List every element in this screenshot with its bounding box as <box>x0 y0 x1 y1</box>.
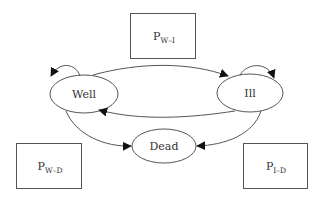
prob-sub: I–D <box>273 166 286 175</box>
prob-label-w-i: PW–I <box>153 30 175 45</box>
prob-box-w-i: PW–I <box>130 13 196 59</box>
state-well-label: Well <box>72 88 96 101</box>
state-ill-label: Ill <box>244 87 255 100</box>
prob-box-i-d: PI–D <box>243 143 308 189</box>
arrow-well-to-ill <box>93 65 228 76</box>
state-dead-label: Dead <box>150 140 179 153</box>
prob-sub: W–I <box>160 36 174 45</box>
prob-sub: W–D <box>45 166 62 175</box>
arrow-well-to-dead <box>66 111 131 146</box>
prob-label-w-d: PW–D <box>38 160 63 175</box>
arrow-well-self <box>51 65 80 76</box>
prob-label-i-d: PI–D <box>266 160 286 175</box>
prob-box-w-d: PW–D <box>16 143 82 189</box>
arrow-ill-to-dead <box>197 111 261 146</box>
arrow-ill-to-well <box>99 110 235 117</box>
